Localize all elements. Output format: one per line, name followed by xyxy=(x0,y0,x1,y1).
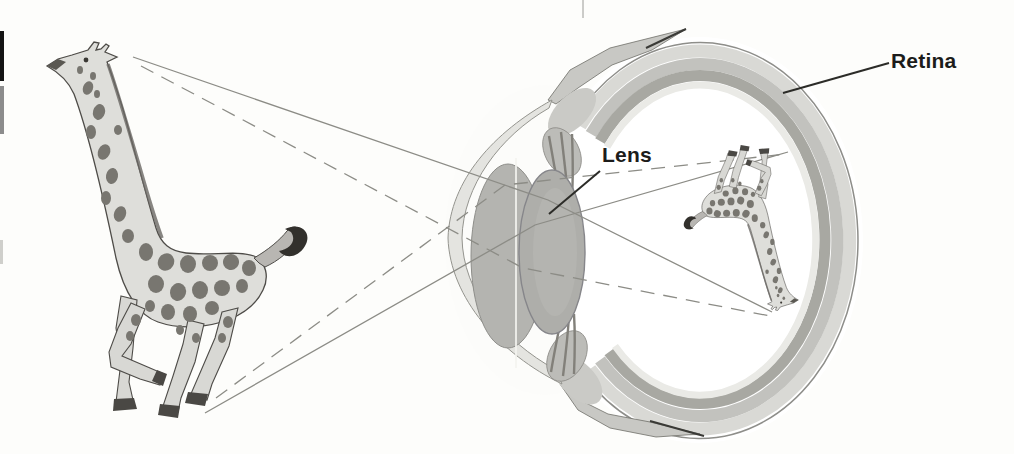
eye-optics-diagram: Lens Retina xyxy=(0,0,1014,454)
lens-inner-shade xyxy=(533,188,577,316)
page-edge-marks xyxy=(0,31,4,264)
figure-canvas xyxy=(0,0,1014,454)
retina-label: Retina xyxy=(891,49,956,73)
eye-cross-section xyxy=(445,29,863,443)
retina-pointer-line xyxy=(783,63,889,93)
lens-label: Lens xyxy=(602,143,652,167)
giraffe-figure xyxy=(47,42,307,418)
